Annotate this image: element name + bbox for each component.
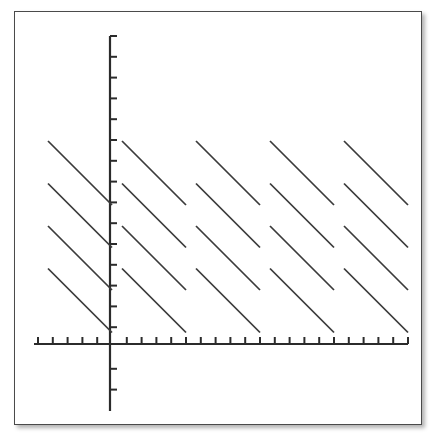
data-line-segment	[270, 226, 334, 290]
data-line-segment	[196, 226, 260, 290]
figure-page	[0, 0, 438, 448]
data-line-segment	[122, 141, 186, 205]
data-line-segment	[48, 269, 112, 333]
coordinate-plot	[0, 0, 438, 448]
data-line-segment	[48, 141, 112, 205]
sawtooth-segments	[48, 141, 408, 333]
y-axis	[110, 36, 117, 411]
x-axis	[34, 337, 408, 344]
data-line-segment	[48, 226, 112, 290]
data-line-segment	[344, 141, 408, 205]
data-line-segment	[122, 184, 186, 248]
data-line-segment	[122, 226, 186, 290]
data-line-segment	[48, 184, 112, 248]
data-line-segment	[344, 269, 408, 333]
data-line-segment	[122, 269, 186, 333]
data-line-segment	[270, 141, 334, 205]
data-line-segment	[196, 141, 260, 205]
data-line-segment	[270, 184, 334, 248]
data-line-segment	[196, 269, 260, 333]
data-line-segment	[344, 226, 408, 290]
data-line-segment	[270, 269, 334, 333]
data-line-segment	[344, 184, 408, 248]
data-line-segment	[196, 184, 260, 248]
